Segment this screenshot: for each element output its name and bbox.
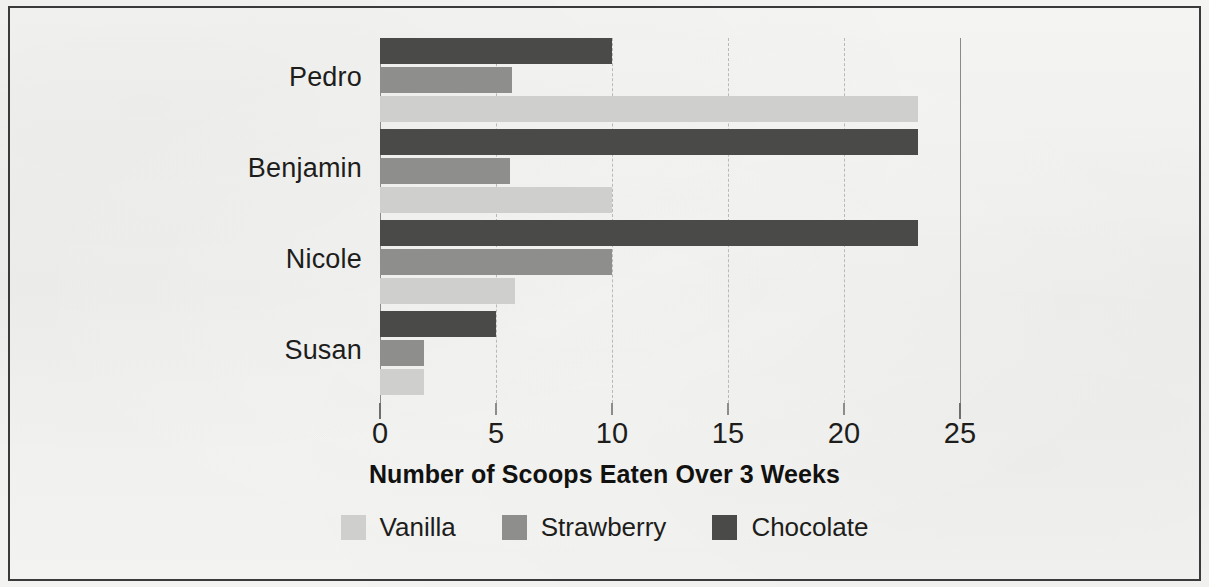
bar-group-pedro <box>380 38 960 129</box>
plot-area <box>380 38 960 403</box>
x-tick-label-25: 25 <box>944 417 976 450</box>
bar-nicole-strawberry <box>380 249 612 275</box>
bar-group-benjamin <box>380 129 960 220</box>
category-label-benjamin: Benjamin <box>150 153 362 184</box>
legend: Vanilla Strawberry Chocolate <box>0 512 1209 543</box>
legend-item-vanilla: Vanilla <box>341 512 456 543</box>
bar-benjamin-vanilla <box>380 187 612 213</box>
x-tick-mark-20 <box>843 403 845 415</box>
x-tick-label-5: 5 <box>488 417 504 450</box>
category-label-susan: Susan <box>150 335 362 366</box>
legend-swatch-vanilla-icon <box>341 515 366 540</box>
bar-group-nicole <box>380 221 960 312</box>
bar-susan-vanilla <box>380 369 424 395</box>
legend-item-chocolate: Chocolate <box>712 512 868 543</box>
bar-benjamin-chocolate <box>380 129 918 155</box>
gridline-25 <box>960 38 961 403</box>
x-tick-mark-10 <box>611 403 613 415</box>
legend-label-strawberry: Strawberry <box>541 512 667 543</box>
x-axis-title: Number of Scoops Eaten Over 3 Weeks <box>0 460 1209 489</box>
legend-swatch-chocolate-icon <box>712 515 737 540</box>
x-tick-label-20: 20 <box>828 417 860 450</box>
bar-nicole-chocolate <box>380 220 918 246</box>
x-tick-label-0: 0 <box>372 417 388 450</box>
bar-group-susan <box>380 312 960 403</box>
legend-item-strawberry: Strawberry <box>502 512 667 543</box>
bar-susan-chocolate <box>380 311 496 337</box>
x-tick-label-15: 15 <box>712 417 744 450</box>
bar-chart-figure: Pedro Benjamin Nicole Susan 0510152025 N… <box>0 0 1209 587</box>
bar-benjamin-strawberry <box>380 158 510 184</box>
category-axis-labels: Pedro Benjamin Nicole Susan <box>150 38 362 403</box>
category-label-pedro: Pedro <box>150 62 362 93</box>
legend-label-vanilla: Vanilla <box>380 512 456 543</box>
bar-pedro-vanilla <box>380 96 918 122</box>
x-tick-mark-5 <box>495 403 497 415</box>
x-axis: 0510152025 <box>380 403 960 453</box>
x-tick-label-10: 10 <box>596 417 628 450</box>
bar-susan-strawberry <box>380 340 424 366</box>
category-label-nicole: Nicole <box>150 244 362 275</box>
legend-swatch-strawberry-icon <box>502 515 527 540</box>
bar-pedro-strawberry <box>380 67 512 93</box>
bar-pedro-chocolate <box>380 38 612 64</box>
x-tick-mark-15 <box>727 403 729 415</box>
legend-label-chocolate: Chocolate <box>751 512 868 543</box>
bar-nicole-vanilla <box>380 278 515 304</box>
